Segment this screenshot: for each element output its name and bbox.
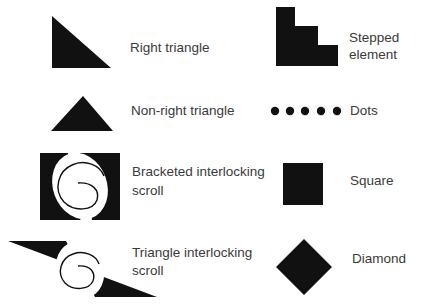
square-label: Square [350,172,394,189]
triangle-scroll-label-line2: scroll [132,262,164,279]
square-shape [283,163,323,205]
stepped-element-label-line2: element [349,46,397,63]
bracketed-scroll-shape [40,145,120,227]
dots-label: Dots [350,102,378,119]
stepped-element-label-line1: Stepped [349,29,399,46]
stepped-element-shape [276,7,338,66]
bracketed-scroll-label-line2: scroll [132,182,164,199]
non-right-triangle-shape [51,96,113,131]
dots-shape [271,107,341,115]
triangle-scroll-label-line1: Triangle interlocking [132,244,252,261]
diamond-shape [276,239,332,295]
right-triangle-shape [52,16,111,68]
bracketed-scroll-label-line1: Bracketed interlocking [132,163,265,180]
non-right-triangle-label: Non-right triangle [131,102,235,119]
right-triangle-label: Right triangle [130,39,210,56]
diamond-label: Diamond [352,250,406,267]
